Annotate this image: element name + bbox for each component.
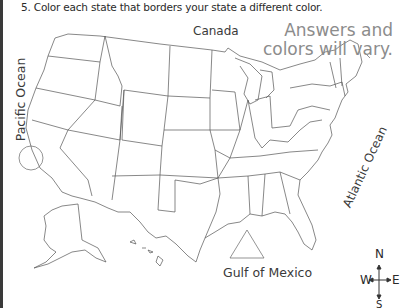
gulf-triangle	[230, 230, 264, 258]
answer-note-line2: colors will vary.	[243, 40, 393, 59]
compass-arrows-icon	[360, 247, 400, 308]
compass-rose: N W E S	[360, 247, 400, 308]
pacific-circle	[19, 146, 43, 170]
canada-label: Canada	[193, 24, 239, 38]
us-outline	[26, 34, 362, 262]
pacific-ocean-label: Pacific Ocean	[13, 50, 28, 150]
gulf-of-mexico-label: Gulf of Mexico	[223, 265, 312, 280]
hawaii	[130, 240, 163, 266]
alaska	[34, 204, 106, 268]
answer-note-line1: Answers and	[243, 21, 393, 40]
answer-note: Answers and colors will vary.	[243, 21, 393, 59]
